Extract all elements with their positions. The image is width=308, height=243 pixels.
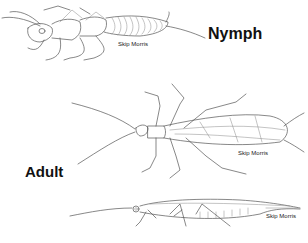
nymph-illustration [2,6,205,60]
adult-label: Adult [25,163,63,180]
nymph-credit: Skip Morris [118,41,148,47]
adult-side-credit: Skip Morris [266,213,296,219]
stonefly-figure: Nymph Adult Skip Morris Skip Morris Skip… [0,0,308,243]
adult-dorsal-illustration [72,84,304,178]
adult-top-credit: Skip Morris [238,150,268,156]
nymph-label: Nymph [208,25,262,43]
